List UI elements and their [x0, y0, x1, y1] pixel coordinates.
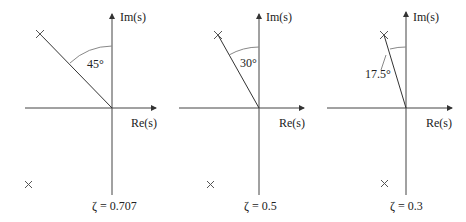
pole-x-icon [25, 181, 32, 188]
pole-line [218, 35, 259, 108]
pole-x-icon [381, 180, 388, 187]
panel-2 [179, 14, 304, 195]
pole-line [40, 34, 112, 108]
im-axis-label: Im(s) [413, 11, 439, 23]
panel-3 [327, 12, 452, 195]
im-axis-label: Im(s) [120, 11, 146, 23]
im-axis-label: Im(s) [266, 11, 292, 23]
zeta-label: ζ = 0.707 [92, 200, 137, 212]
angle-label: 17.5° [365, 68, 391, 80]
angle-arc [229, 47, 259, 55]
pole-diagrams [0, 0, 466, 222]
re-axis-label: Re(s) [279, 117, 305, 129]
pole-x-icon [207, 181, 214, 188]
angle-arc [390, 47, 406, 49]
angle-label: 45° [87, 58, 104, 70]
pole-x-icon [214, 31, 222, 39]
pole-x-icon [36, 30, 44, 38]
pole-x-icon [380, 31, 388, 39]
zeta-label: ζ = 0.3 [390, 200, 423, 212]
angle-label: 30° [240, 57, 257, 69]
zeta-label: ζ = 0.5 [244, 200, 277, 212]
panel-1 [25, 14, 156, 195]
re-axis-label: Re(s) [426, 117, 452, 129]
re-axis-label: Re(s) [131, 117, 157, 129]
